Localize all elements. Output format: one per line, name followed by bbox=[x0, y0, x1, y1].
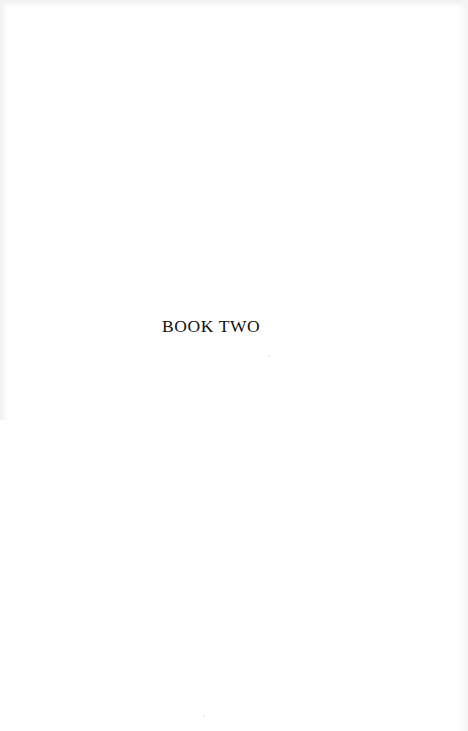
scan-edge-right bbox=[458, 0, 468, 731]
scan-speck bbox=[268, 355, 270, 357]
scan-edge-top bbox=[0, 0, 468, 8]
scan-edge-left bbox=[0, 0, 8, 420]
book-page: BOOK TWO bbox=[0, 0, 468, 731]
scan-speck bbox=[203, 715, 205, 717]
section-title: BOOK TWO bbox=[162, 316, 260, 336]
